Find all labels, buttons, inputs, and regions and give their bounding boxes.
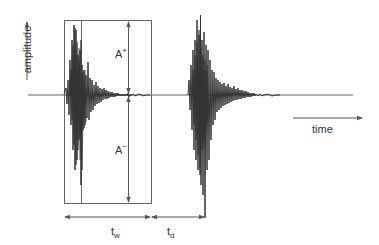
a-minus-sup: − [122, 142, 127, 151]
a-minus-label: A− [115, 143, 127, 156]
a-plus-label: A+ [115, 47, 127, 60]
a-plus-sup: + [122, 46, 127, 55]
t-w-sub: w [114, 231, 120, 240]
first-burst-signal [64, 25, 150, 185]
second-burst-signal [188, 15, 280, 218]
time-axis-label: time [312, 124, 333, 135]
t-d-label: td [167, 226, 175, 240]
t-w-label: tw [111, 226, 120, 240]
amplitude-axis-label: amplitude [22, 25, 33, 75]
t-d-sub: d [170, 231, 174, 240]
